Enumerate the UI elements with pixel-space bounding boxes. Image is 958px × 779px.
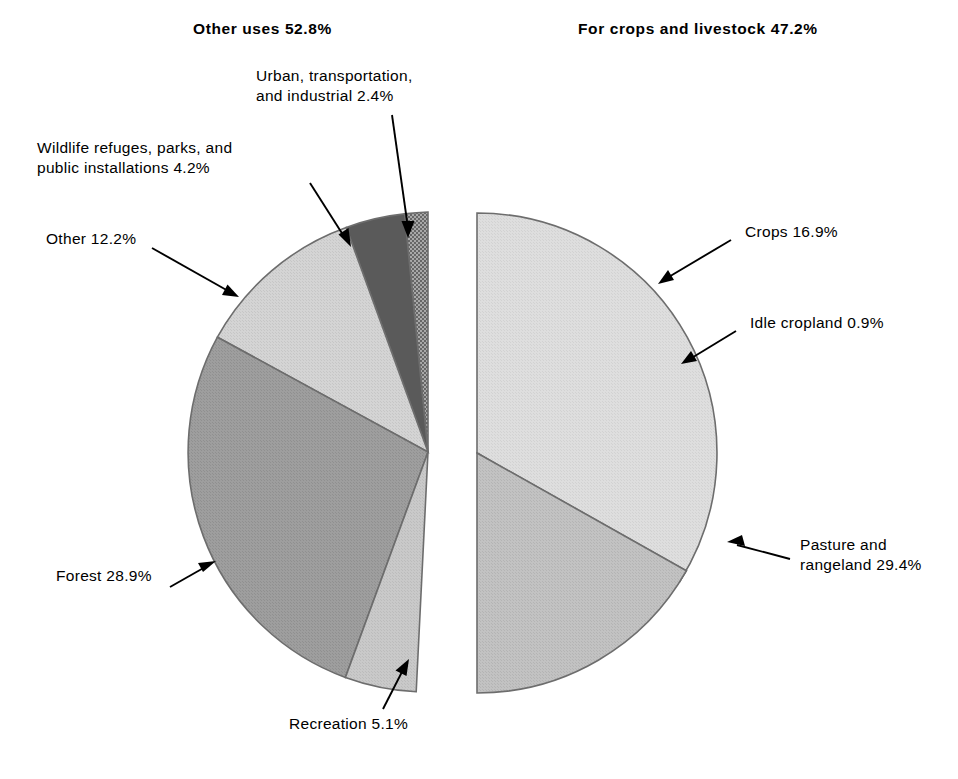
label-recreation: Recreation 5.1% <box>289 714 408 734</box>
label-wildlife-line2: public installations 4.2% <box>37 159 210 176</box>
leader-forest <box>170 561 216 587</box>
leader-pasture <box>727 535 790 559</box>
label-crops: Crops 16.9% <box>745 222 838 242</box>
label-idle-cropland: Idle cropland 0.9% <box>750 313 884 333</box>
label-pasture-rangeland: Pasture and rangeland 29.4% <box>800 535 922 575</box>
pie-chart-graphic <box>0 0 958 779</box>
label-forest: Forest 28.9% <box>56 566 152 586</box>
leader-crops <box>658 240 731 284</box>
label-urban-transportation-industrial: Urban, transportation, and industrial 2.… <box>256 66 413 106</box>
label-wildlife-refuges-parks: Wildlife refuges, parks, and public inst… <box>37 138 232 178</box>
label-urban-line2: and industrial 2.4% <box>256 87 394 104</box>
label-urban-line1: Urban, transportation, <box>256 67 413 84</box>
label-pasture-line2: rangeland 29.4% <box>800 556 922 573</box>
label-wildlife-line1: Wildlife refuges, parks, and <box>37 139 232 156</box>
leader-other <box>152 248 239 297</box>
label-other: Other 12.2% <box>46 229 136 249</box>
label-pasture-line1: Pasture and <box>800 536 887 553</box>
chart-canvas: Other uses 52.8% For crops and livestock… <box>0 0 958 779</box>
